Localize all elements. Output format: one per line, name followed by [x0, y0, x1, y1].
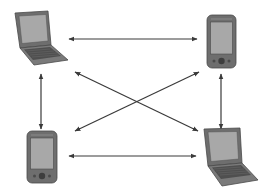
pda-icon-top-right [207, 15, 236, 68]
laptop-icon-bottom-right [204, 128, 258, 186]
pda-icon-bottom-left [27, 131, 57, 183]
network-diagram [0, 0, 268, 195]
edges [41, 39, 221, 156]
laptop-icon-top-left [15, 11, 68, 65]
